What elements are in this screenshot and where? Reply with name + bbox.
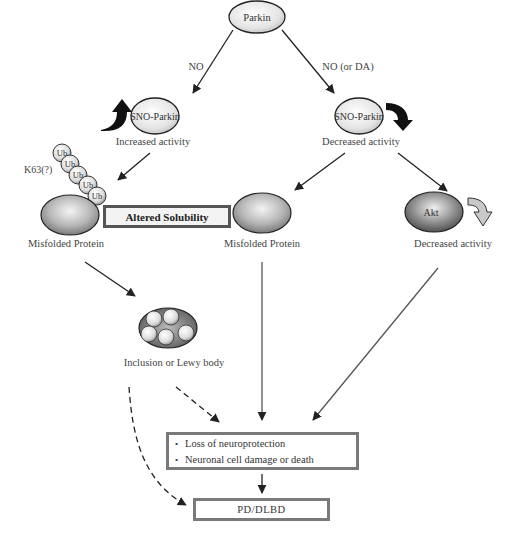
outcome-item: •Neuronal cell damage or death bbox=[169, 452, 356, 468]
edge-label-no: NO bbox=[188, 61, 203, 72]
k63-label: K63(?) bbox=[24, 164, 52, 175]
misfolded-protein-middle-node bbox=[233, 193, 291, 233]
arrow-akt-to-outcome bbox=[313, 268, 438, 420]
sno-parkin-right-label: SNO-Parkin bbox=[334, 111, 383, 122]
outcome-item: •Loss of neuroprotection bbox=[169, 436, 356, 452]
ub-label: Ub bbox=[92, 191, 102, 201]
arrow-misfolded-to-inclusion bbox=[85, 262, 135, 296]
akt-decreased-arrow-icon bbox=[468, 198, 492, 226]
ub-label: Ub bbox=[57, 148, 67, 158]
parkin-label: Parkin bbox=[243, 12, 270, 23]
altered-solubility-box: Altered Solubility bbox=[103, 205, 231, 228]
arrow-sno-right-to-misfolded bbox=[295, 153, 345, 190]
arrow-sno-right-to-akt bbox=[398, 153, 447, 191]
inclusion-body-icon bbox=[139, 308, 197, 348]
sno-parkin-left-label: SNO-Parkin bbox=[130, 111, 179, 122]
outcome-box: •Loss of neuroprotection •Neuronal cell … bbox=[166, 432, 359, 470]
inclusion-caption: Inclusion or Lewy body bbox=[124, 357, 225, 368]
arrow-inclusion-to-outcome-dashed bbox=[176, 387, 219, 422]
decreased-arrow-icon bbox=[386, 103, 413, 131]
ub-label: Ub bbox=[83, 180, 93, 190]
misfolded-protein-middle-caption: Misfolded Protein bbox=[224, 238, 300, 249]
decreased-activity-caption: Decreased activity bbox=[322, 136, 400, 147]
arrow-sno-left-to-misfolded bbox=[118, 153, 150, 180]
increased-arrow-icon bbox=[101, 99, 132, 131]
pd-dlbd-box: PD/DLBD bbox=[193, 498, 330, 521]
ub-label: Ub bbox=[65, 159, 75, 169]
increased-activity-caption: Increased activity bbox=[116, 136, 190, 147]
ub-label: Ub bbox=[73, 170, 83, 180]
akt-decreased-activity-caption: Decreased activity bbox=[414, 238, 492, 249]
altered-solubility-label: Altered Solubility bbox=[106, 211, 228, 223]
misfolded-protein-left-caption: Misfolded Protein bbox=[28, 238, 104, 249]
akt-label: Akt bbox=[424, 207, 439, 218]
edge-label-no-or-da: NO (or DA) bbox=[322, 61, 373, 72]
pd-dlbd-label: PD/DLBD bbox=[196, 501, 327, 519]
misfolded-protein-left-node bbox=[41, 195, 99, 235]
